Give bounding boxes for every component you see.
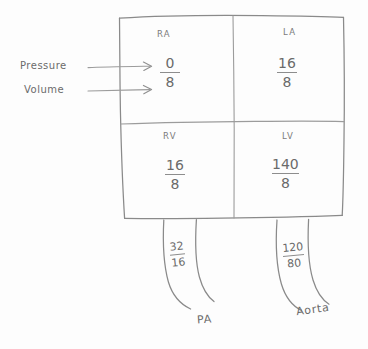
rv-volume-value: 8 (171, 177, 180, 191)
rv-pressure-value: 16 (166, 158, 184, 173)
chamber-values-rv: 16 8 (165, 158, 185, 191)
la-volume-value: 8 (283, 75, 292, 89)
heart-box-top (120, 15, 344, 18)
la-pressure-value: 16 (278, 56, 296, 71)
divider-vertical (233, 16, 234, 218)
heart-box-right (342, 17, 344, 215)
la-fraction-bar (277, 72, 297, 73)
pa-label: PA (197, 312, 213, 326)
ra-volume-value: 8 (166, 75, 175, 89)
pressure-label: Pressure (20, 60, 67, 71)
rv-fraction-bar (165, 174, 185, 175)
aorta-values: 120 80 (282, 241, 305, 270)
divider-horizontal (121, 121, 344, 124)
volume-arrow-line (88, 90, 150, 91)
pressure-arrow-line (88, 66, 150, 67)
aorta-systolic-value: 120 (282, 241, 304, 255)
heart-box-left (120, 18, 125, 218)
chamber-values-la: 16 8 (277, 56, 297, 89)
pa-vessel-right-wall (196, 220, 214, 302)
aorta-vessel-right-wall (308, 219, 329, 304)
pa-diastolic-value: 16 (171, 256, 186, 268)
chamber-label-ra: RA (157, 29, 171, 39)
pa-values: 32 16 (169, 240, 187, 268)
chamber-values-ra: 0 8 (160, 56, 180, 89)
chamber-label-lv: LV (282, 131, 294, 141)
lv-volume-value: 8 (281, 176, 290, 190)
chamber-values-lv: 140 8 (272, 157, 299, 190)
diagram-canvas: Pressure Volume RA 0 8 LA 16 8 RV 16 8 L… (0, 0, 368, 349)
pa-systolic-value: 32 (169, 240, 184, 253)
chamber-label-rv: RV (163, 131, 177, 141)
aorta-diastolic-value: 80 (287, 257, 302, 269)
volume-label: Volume (24, 84, 64, 95)
chamber-label-la: LA (283, 27, 296, 37)
lv-pressure-value: 140 (272, 157, 299, 172)
ra-fraction-bar (160, 72, 180, 73)
ra-pressure-value: 0 (166, 56, 175, 71)
lv-fraction-bar (272, 173, 299, 174)
heart-box-bottom (125, 215, 343, 218)
